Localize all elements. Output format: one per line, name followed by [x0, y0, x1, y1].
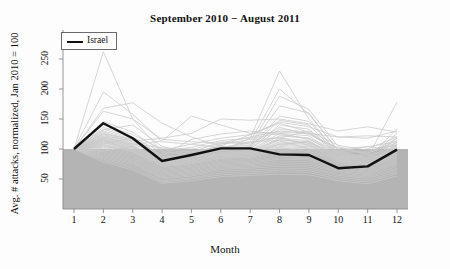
legend-line-swatch-israel [67, 41, 83, 43]
y-tick-label: 250 [40, 45, 50, 71]
x-tick-label: 6 [211, 214, 231, 225]
x-tick-label: 3 [123, 214, 143, 225]
y-tick-label: 100 [40, 135, 50, 161]
x-tick-label: 2 [93, 214, 113, 225]
x-tick-label: 11 [358, 214, 378, 225]
y-tick-label: 150 [40, 105, 50, 131]
legend-box[interactable]: Israel [61, 32, 117, 50]
x-tick-label: 4 [152, 214, 172, 225]
x-tick-label: 12 [387, 214, 407, 225]
x-tick-label: 1 [64, 214, 84, 225]
x-tick-label: 5 [181, 214, 201, 225]
y-tick-label: 50 [40, 165, 50, 191]
x-tick-label: 7 [240, 214, 260, 225]
x-tick-label: 10 [328, 214, 348, 225]
x-tick-label: 9 [299, 214, 319, 225]
x-tick-label: 8 [270, 214, 290, 225]
legend-label-israel: Israel [87, 35, 108, 45]
chart-figure: September 2010 − August 2011 Avg. # atta… [0, 0, 450, 269]
background-series-layer [74, 52, 397, 184]
y-tick-label: 200 [40, 75, 50, 101]
